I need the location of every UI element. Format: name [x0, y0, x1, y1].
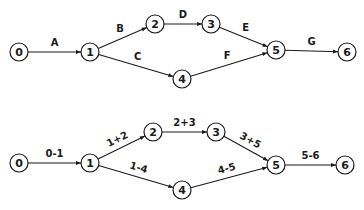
node-4: 4	[173, 70, 191, 88]
edge-label: E	[242, 22, 249, 33]
edge-4-5: F	[191, 50, 268, 77]
node-label: 0	[15, 157, 23, 170]
edge-5-6: G	[285, 36, 338, 52]
edge-5-6: 5-6	[285, 150, 336, 165]
node-2: 2	[146, 15, 164, 33]
node-label: 2	[151, 18, 159, 31]
node-4: 4	[173, 181, 191, 199]
edge-1-2: 1+2	[98, 129, 145, 159]
node-label: 1	[86, 46, 94, 59]
node-label: 0	[15, 46, 23, 59]
node-label: 4	[178, 184, 186, 197]
node-3: 3	[202, 15, 220, 33]
edge-label: F	[224, 50, 231, 61]
edge-label: 1-4	[128, 160, 148, 176]
edge-1-2: B	[98, 23, 146, 48]
edge-label: C	[134, 51, 141, 62]
node-label: 4	[178, 73, 186, 86]
edge-1-4: 1-4	[99, 160, 174, 188]
node-label: 6	[343, 46, 351, 59]
node-label: 5	[272, 159, 280, 172]
network-diagrams: ABCDEFG0123456 0-11+21-42+33+54-55-60123…	[0, 0, 364, 210]
edge-label: B	[116, 23, 124, 34]
edge-label: 4-5	[216, 161, 236, 176]
node-1: 1	[81, 43, 99, 61]
edge-0-1: 0-1	[28, 148, 81, 163]
edge-label: A	[51, 37, 59, 48]
node-6: 6	[336, 156, 354, 174]
node-0: 0	[10, 43, 28, 61]
edge-1-4: C	[99, 51, 174, 77]
edge-0-1: A	[28, 37, 81, 52]
edge-label: 2+3	[173, 117, 195, 128]
activity-letter-network: ABCDEFG0123456	[10, 9, 356, 88]
node-5: 5	[267, 156, 285, 174]
node-6: 6	[338, 43, 356, 61]
node-label: 2	[149, 126, 157, 139]
edge-label: 5-6	[301, 150, 319, 161]
edge-4-5: 4-5	[191, 161, 268, 188]
node-1: 1	[81, 154, 99, 172]
edge-3-5: 3+5	[224, 130, 268, 161]
node-label: 6	[341, 159, 349, 172]
edge-3-5: E	[219, 22, 267, 46]
edge-label: D	[179, 9, 187, 20]
node-3: 3	[207, 123, 225, 141]
edge-2-3: 2+3	[162, 117, 207, 132]
activity-node-pair-network: 0-11+21-42+33+54-55-60123456	[10, 117, 354, 199]
node-2: 2	[144, 123, 162, 141]
node-0: 0	[10, 154, 28, 172]
edge-label: 3+5	[238, 130, 263, 150]
node-label: 5	[272, 44, 280, 57]
edge-label: 0-1	[45, 148, 63, 159]
node-label: 1	[86, 157, 94, 170]
arrow-line	[285, 50, 338, 51]
edge-label: G	[308, 36, 316, 47]
node-label: 3	[207, 18, 215, 31]
node-5: 5	[267, 41, 285, 59]
edge-2-3: D	[164, 9, 202, 24]
node-label: 3	[212, 126, 220, 139]
